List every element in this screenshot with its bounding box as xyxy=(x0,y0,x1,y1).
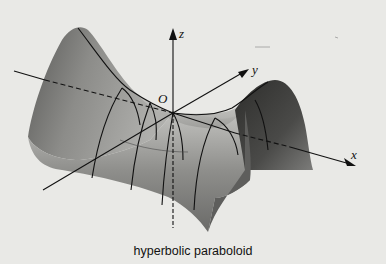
hyperbolic-paraboloid-figure xyxy=(0,0,386,264)
y-axis-label: y xyxy=(252,63,258,76)
x-axis-label: x xyxy=(351,148,357,161)
z-axis-label: z xyxy=(179,27,184,40)
figure-caption: hyperbolic paraboloid xyxy=(0,244,386,258)
origin-point xyxy=(171,111,174,114)
scan-artifacts xyxy=(255,37,338,47)
origin-label: O xyxy=(158,92,167,105)
y-axis-arrowhead xyxy=(238,69,249,78)
z-axis-arrowhead xyxy=(169,28,177,40)
